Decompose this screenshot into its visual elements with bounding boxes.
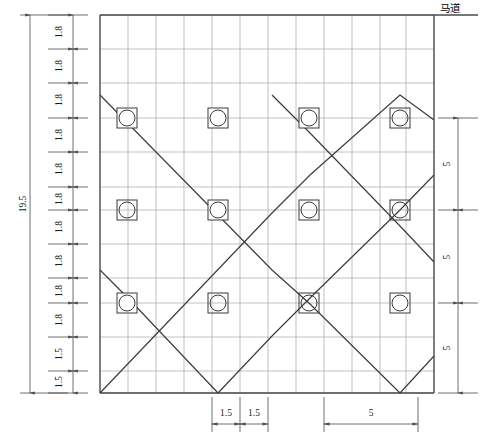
bottom-dimension-labels: 1.5 1.5 5 [220, 408, 374, 418]
bottom-dim-label: 5 [369, 408, 374, 418]
left-dim-label: 1.8 [54, 285, 64, 297]
berm-label: 马道 [440, 2, 461, 14]
left-dim-label: 1.8 [54, 60, 64, 72]
overall-dimension-label: 19.5 [18, 195, 28, 212]
left-dim-label: 1.8 [54, 163, 64, 175]
right-dim-label: 5 [442, 254, 452, 259]
bottom-dim-label: 1.5 [220, 408, 232, 418]
left-dimension-labels: 1.8 1.8 1.8 1.8 1.8 1.8 1.8 1.8 1.8 1.8 … [54, 26, 64, 388]
right-dim-label: 5 [442, 345, 452, 350]
left-dim-label: 1.8 [54, 129, 64, 141]
drawing-border [100, 15, 434, 393]
left-dim-label: 1.8 [54, 94, 64, 106]
right-dim-label: 5 [442, 161, 452, 166]
diagonal-line [218, 175, 434, 393]
bottom-dimension-chain [212, 397, 418, 432]
bottom-dim-label: 1.5 [248, 408, 260, 418]
anchor-markers [117, 108, 410, 313]
anchor-marker [117, 293, 137, 313]
left-dim-label: 1.8 [54, 221, 64, 233]
diagonal-line [400, 356, 434, 393]
left-dim-label: 1.8 [54, 314, 64, 326]
engineering-drawing-sheet: 马道 19.5 1.8 1.8 1.8 [0, 0, 490, 442]
anchor-marker [390, 293, 410, 313]
grid-lines [100, 15, 434, 393]
left-dim-label: 1.5 [54, 376, 64, 388]
anchor-marker [208, 108, 228, 128]
anchor-marker [208, 200, 228, 220]
left-dim-label: 1.5 [54, 348, 64, 360]
anchor-marker [299, 108, 319, 128]
anchor-marker [117, 108, 137, 128]
left-dim-label: 1.8 [54, 255, 64, 267]
left-dim-label: 1.8 [54, 193, 64, 205]
right-dimension-labels: 5 5 5 [442, 161, 452, 350]
left-dim-label: 1.8 [54, 26, 64, 38]
